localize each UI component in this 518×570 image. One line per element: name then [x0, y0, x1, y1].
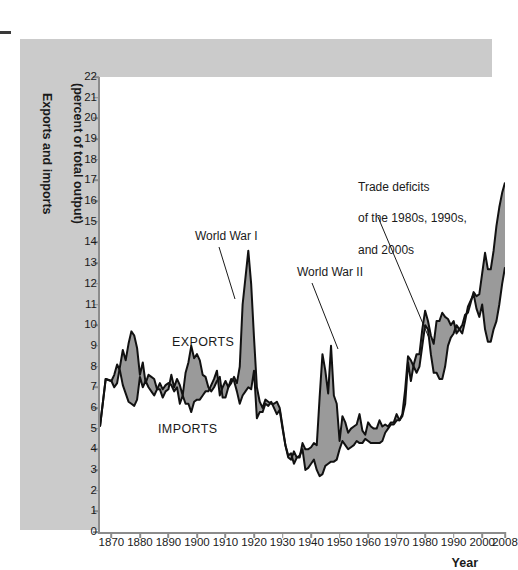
- x-tick-label: 1900: [184, 537, 210, 549]
- y-tick-label: 17: [63, 175, 97, 187]
- y-tick-label: 14: [63, 237, 97, 249]
- y-tick-label: 15: [63, 216, 97, 228]
- x-tick-label: 1950: [327, 537, 353, 549]
- y-tick-label: 3: [63, 464, 97, 476]
- annotation-world-war-1: World War I: [195, 229, 258, 245]
- x-tick-label: 1930: [270, 537, 296, 549]
- page-margin-dash: [0, 31, 11, 34]
- x-tick-label: 1960: [355, 537, 381, 549]
- y-tick-label: 22: [63, 71, 97, 83]
- series-label-imports: IMPORTS: [158, 422, 218, 436]
- y-tick-label: 19: [63, 133, 97, 145]
- y-tick-label: 10: [63, 319, 97, 331]
- y-tick-label: 8: [63, 361, 97, 373]
- x-tick-label: 1970: [384, 537, 410, 549]
- y-tick-label: 12: [63, 278, 97, 290]
- y-tick-label: 7: [63, 381, 97, 393]
- chart-figure-panel: Exports and imports (percent of total ou…: [20, 39, 492, 530]
- plot-area: 012345678910111213141516171819202122 187…: [98, 77, 505, 534]
- y-tick-label: 11: [63, 299, 97, 311]
- y-tick-label: 0: [63, 526, 97, 538]
- y-axis-label-line1: Exports and imports: [38, 83, 54, 224]
- series-label-exports: EXPORTS: [172, 335, 234, 349]
- x-tick-label: 1910: [213, 537, 239, 549]
- y-tick-label: 9: [63, 340, 97, 352]
- series-svg: [100, 77, 505, 532]
- x-tick-label: 1870: [99, 537, 125, 549]
- y-tick-label: 2: [63, 485, 97, 497]
- x-tick-label: 1990: [441, 537, 467, 549]
- y-tick-label: 13: [63, 257, 97, 269]
- x-tick-label: 1940: [298, 537, 324, 549]
- y-tick-label: 5: [63, 423, 97, 435]
- x-tick-label: 2000: [469, 537, 495, 549]
- x-tick-label: 1980: [412, 537, 438, 549]
- y-tick-label: 1: [63, 506, 97, 518]
- y-tick-label: 4: [63, 444, 97, 456]
- y-tick-label: 20: [63, 113, 97, 125]
- annotation-world-war-2: World War II: [297, 265, 363, 281]
- x-tick-label: 1890: [156, 537, 182, 549]
- y-tick-label: 16: [63, 195, 97, 207]
- x-tick-label: 1880: [127, 537, 153, 549]
- x-tick-label: 1920: [241, 537, 267, 549]
- x-tick-label: 2008: [492, 537, 518, 549]
- annotation-trade-deficits-line1: Trade deficits: [358, 180, 467, 196]
- y-tick-label: 21: [63, 92, 97, 104]
- annotation-trade-deficits-line3: and 2000s: [358, 243, 467, 259]
- annotation-trade-deficits: Trade deficits of the 1980s, 1990s, and …: [358, 164, 467, 275]
- y-tick-label: 18: [63, 154, 97, 166]
- y-tick-label: 6: [63, 402, 97, 414]
- annotation-trade-deficits-line2: of the 1980s, 1990s,: [358, 211, 467, 227]
- x-axis-label: Year: [452, 556, 478, 570]
